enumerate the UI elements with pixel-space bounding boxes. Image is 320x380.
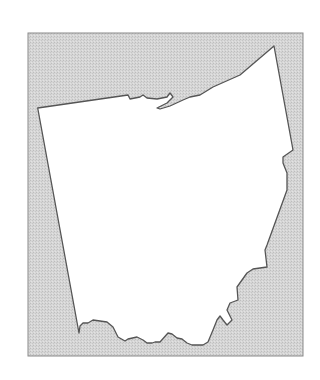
map-figure xyxy=(0,0,320,380)
map-svg xyxy=(0,0,320,380)
